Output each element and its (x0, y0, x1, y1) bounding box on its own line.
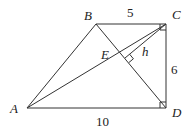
label-B: B (84, 8, 92, 23)
diagonal-BD (96, 24, 166, 108)
label-h: h (142, 44, 149, 59)
edge-AB (27, 24, 96, 108)
label-A: A (9, 101, 18, 116)
geometry-diagram: A B C D E h 5 6 10 (0, 0, 191, 130)
label-C: C (172, 7, 181, 22)
diagonal-AC (27, 24, 166, 108)
right-angle-marker-foot (129, 54, 134, 62)
label-E: E (100, 47, 109, 62)
label-D: D (171, 105, 182, 120)
length-CD: 6 (171, 62, 178, 77)
length-AD: 10 (96, 114, 109, 129)
length-BC: 5 (127, 5, 134, 20)
